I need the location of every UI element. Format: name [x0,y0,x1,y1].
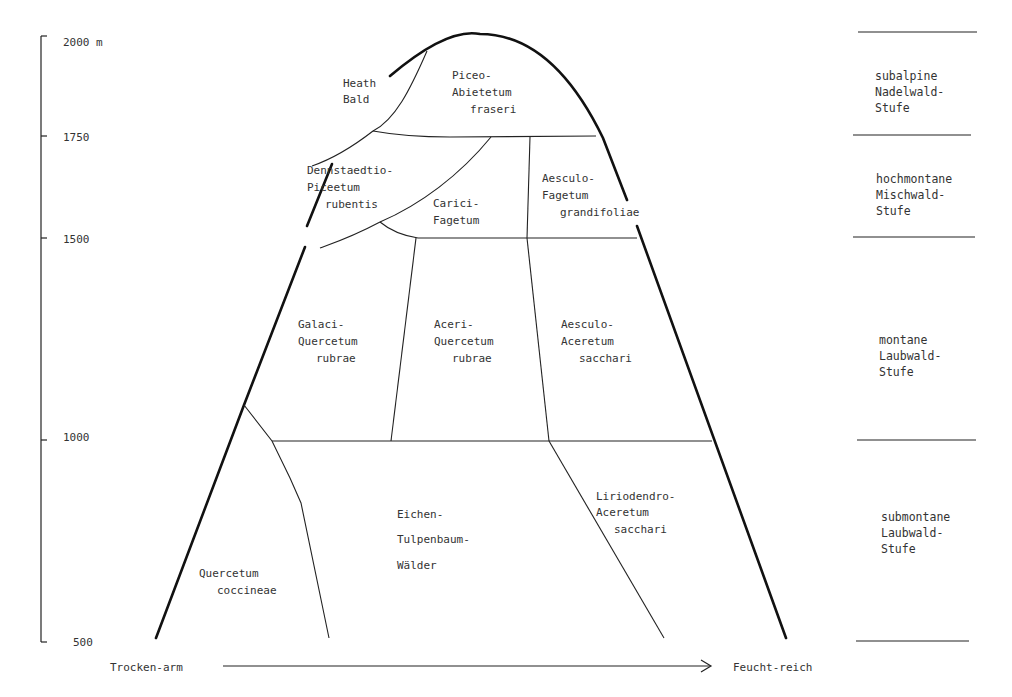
belt-hochmontane: hochmontane Mischwald- Stufe [876,172,959,218]
label-carici-fagetum: Carici- Fagetum [433,197,486,227]
label-dennstaedtio-piceetum: Dennstaedtio- Piceetum rubentis [307,164,400,211]
belt-submontane: submontane Laubwald- Stufe [881,510,957,556]
label-aceri-quercetum: Aceri- Quercetum rubrae [434,318,500,365]
belt-montane: montane Laubwald- Stufe [879,333,948,379]
label-aesculo-aceretum: Aesculo- Aceretum sacchari [561,318,632,365]
gradient-right-label: Feucht-reich [733,661,812,674]
tick-1000: 1000 [63,431,90,444]
belt-subalpine: subalpine Nadelwald- Stufe [875,69,951,115]
label-eichen-tulpenbaum: Eichen- Tulpenbaum- Wälder [397,508,476,572]
altitudinal-belts: subalpine Nadelwald- Stufe hochmontane M… [853,32,977,641]
label-galaci-quercetum: Galaci- Quercetum rubrae [298,318,364,365]
label-piceo-abietetum: Piceo- Abietetum fraseri [452,69,518,116]
label-quercetum-coccineae: Quercetum coccineae [199,567,277,597]
gradient-left-label: Trocken-arm [110,661,183,674]
vegetation-zonation-diagram: 2000 m 1750 1500 1000 500 Heath Bald Pic… [0,0,1012,697]
tick-2000: 2000 m [63,36,103,49]
tick-1500: 1500 [63,233,90,246]
label-heath-bald: Heath Bald [343,77,383,106]
altitude-axis: 2000 m 1750 1500 1000 500 [41,36,103,649]
tick-500: 500 [73,636,93,649]
tick-1750: 1750 [63,131,90,144]
label-liriodendro-aceretum: Liriodendro- Aceretum sacchari [596,490,682,536]
moisture-gradient: Trocken-arm Feucht-reich [110,660,812,674]
